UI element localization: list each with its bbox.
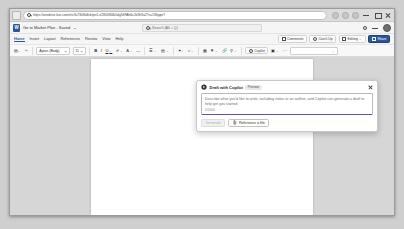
gear-icon[interactable] <box>363 26 367 30</box>
bold-button[interactable]: B <box>94 48 98 53</box>
generate-label: Generate <box>206 121 221 125</box>
pencil-icon <box>342 37 346 41</box>
copilot-label: Copilot <box>254 49 265 53</box>
document-page[interactable]: Draft with Copilot Preview Describe what… <box>91 59 313 215</box>
paste-button[interactable]: ▤⌄ <box>13 48 22 53</box>
bold-label: B <box>94 48 97 53</box>
toolbar-divider <box>32 47 33 55</box>
screen: https://onedrive.live.com/e/c/fa730f4dfc… <box>0 0 404 229</box>
chevron-down-icon: ⌄ <box>276 49 279 53</box>
editing-mode-button[interactable]: Editing ⌄ <box>339 35 366 43</box>
strikethrough-icon[interactable]: — <box>136 48 141 53</box>
chevron-down-icon: ⌄ <box>130 49 133 53</box>
chevron-down-icon: ⌄ <box>80 49 83 53</box>
share-button[interactable]: Share <box>368 35 390 43</box>
style-gallery[interactable]: ⌄ <box>290 47 338 55</box>
tab-review[interactable]: Review <box>85 37 97 42</box>
character-counter: 0/2000 <box>205 108 369 112</box>
chevron-down-icon: ⌄ <box>154 49 157 53</box>
catch-up-label: Catch Up <box>318 37 332 41</box>
editing-label: Editing <box>348 37 358 41</box>
search-placeholder: Search (Alt + Q) <box>152 26 178 30</box>
chevron-down-icon: ⌄ <box>181 49 184 53</box>
highlight-color-icon[interactable]: ✐⌄ <box>115 48 123 53</box>
chevron-down-icon: ⌄ <box>332 49 335 53</box>
close-icon[interactable] <box>384 11 392 19</box>
generate-button[interactable]: Generate <box>201 119 225 128</box>
address-bar[interactable]: https://onedrive.live.com/e/c/fa730f4dfc… <box>23 11 327 20</box>
toolbar-overflow-button[interactable]: ··· <box>282 48 287 53</box>
chevron-down-icon: ⌄ <box>18 49 21 53</box>
font-size-select[interactable]: 11 ⌄ <box>73 47 86 55</box>
catch-up-button[interactable]: Catch Up <box>309 35 336 43</box>
reference-file-button[interactable]: Reference a file <box>228 119 269 128</box>
font-color-icon[interactable]: A⌄ <box>126 48 134 53</box>
tab-help[interactable]: Help <box>116 37 124 42</box>
format-painter-button[interactable]: ✁ <box>24 48 28 53</box>
document-title-caret[interactable]: ⌄ <box>73 25 76 30</box>
font-name-value: Aptos (Body) <box>39 49 59 53</box>
text-styles-icon[interactable]: ✦⌄ <box>177 48 185 53</box>
font-size-value: 11 <box>75 49 79 53</box>
tab-list-icon[interactable] <box>12 11 21 20</box>
dictate-icon[interactable]: ⚲⌄ <box>230 48 238 53</box>
document-canvas[interactable]: Draft with Copilot Preview Describe what… <box>10 57 394 215</box>
insert-link-icon[interactable]: 🔗 <box>221 48 227 53</box>
title-bar-actions <box>363 24 391 32</box>
copilot-icon <box>201 84 207 90</box>
bullet-list-icon[interactable]: ☰⌄ <box>149 48 158 53</box>
browser-toolbar: https://onedrive.live.com/e/c/fa730f4dfc… <box>10 9 394 22</box>
find-icon[interactable]: ⌕⌄ <box>187 48 194 53</box>
close-icon[interactable] <box>367 84 373 90</box>
chevron-down-icon: ⌄ <box>64 49 67 53</box>
chevron-down-icon: ⌄ <box>166 49 169 53</box>
favorite-star-icon[interactable] <box>332 12 339 19</box>
search-input[interactable]: Search (Alt + Q) <box>142 24 262 32</box>
search-icon <box>27 13 31 17</box>
minimize-icon[interactable] <box>371 24 379 32</box>
document-title[interactable]: Go to Market Plan - Saved <box>23 25 70 30</box>
underline-label: U <box>106 48 109 53</box>
tab-layout[interactable]: Layout <box>44 37 55 42</box>
share-label: Share <box>377 37 386 41</box>
copilot-icon <box>249 49 253 53</box>
comment-icon <box>282 37 286 41</box>
share-icon <box>372 37 376 41</box>
draft-with-copilot-dialog: Draft with Copilot Preview Describe what… <box>196 80 378 132</box>
insert-table-icon[interactable]: ▦ <box>202 48 207 53</box>
minimize-icon[interactable] <box>362 11 370 19</box>
tab-view[interactable]: View <box>102 37 110 42</box>
italic-button[interactable]: I <box>100 48 102 53</box>
ribbon-actions: Comments Catch Up Editing ⌄ Share <box>278 35 390 43</box>
align-icon[interactable]: ▤⌄ <box>160 48 169 53</box>
avatar[interactable] <box>383 24 391 32</box>
insert-picture-icon[interactable]: ▼⌄ <box>210 48 219 53</box>
comments-button[interactable]: Comments <box>278 35 307 43</box>
tab-references[interactable]: References <box>60 37 79 42</box>
search-icon <box>146 26 150 30</box>
prompt-placeholder: Describe what you'd like to write, inclu… <box>205 97 369 107</box>
profile-avatar-icon[interactable] <box>352 12 359 19</box>
status-badge: Preview <box>245 85 261 90</box>
restore-icon[interactable] <box>373 11 381 19</box>
extensions-icon[interactable] <box>342 12 349 19</box>
tab-home[interactable]: Home <box>14 37 25 42</box>
editor-icon[interactable]: ▣⌄ <box>271 48 280 53</box>
chevron-down-icon: ⌄ <box>359 37 362 41</box>
tab-insert[interactable]: Insert <box>30 37 40 42</box>
dialog-title: Draft with Copilot <box>210 85 243 90</box>
chevron-down-icon: ⌄ <box>234 49 237 53</box>
word-logo-icon <box>13 24 20 32</box>
reference-label: Reference a file <box>239 121 265 125</box>
attach-file-icon <box>233 120 237 125</box>
copilot-button[interactable]: Copilot <box>245 47 268 55</box>
prompt-input[interactable]: Describe what you'd like to write, inclu… <box>201 93 373 115</box>
font-name-select[interactable]: Aptos (Body) ⌄ <box>36 47 70 55</box>
chevron-down-icon: ⌄ <box>215 49 218 53</box>
toolbar-divider <box>173 47 174 55</box>
chevron-down-icon: ⌄ <box>120 49 123 53</box>
underline-button[interactable]: U⌄ <box>105 48 113 53</box>
chevron-down-icon: ⌄ <box>191 49 194 53</box>
ribbon-tab-bar: Home Insert Layout References Review Vie… <box>10 34 394 44</box>
browser-controls <box>329 11 392 19</box>
